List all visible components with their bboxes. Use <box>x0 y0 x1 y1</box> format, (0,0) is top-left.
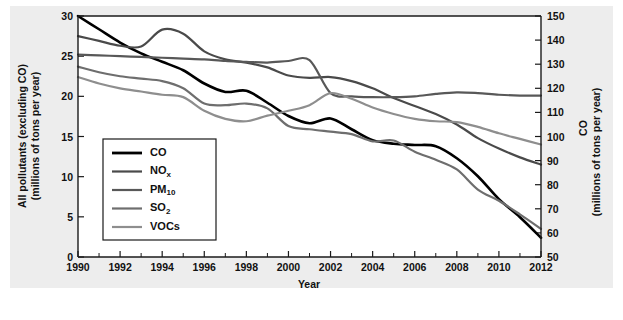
pollutant-trends-line-chart: 1990199219941996199820002002200420062008… <box>0 0 623 320</box>
left-y-tick-label: 15 <box>61 131 73 143</box>
x-axis-tick-labels: 1990199219941996199820002002200420062008… <box>66 261 553 273</box>
legend-label-vocs: VOCs <box>150 220 180 232</box>
right-y-tick-label: 80 <box>547 179 559 191</box>
right-y-tick-label: 120 <box>547 82 565 94</box>
right-y-tick-label: 100 <box>547 131 565 143</box>
legend-label-subscript: 2 <box>166 207 171 216</box>
x-tick-label: 2010 <box>487 261 511 273</box>
x-tick-label: 1996 <box>193 261 217 273</box>
right-y-tick-label: 110 <box>547 106 564 118</box>
left-y-tick-label: 5 <box>67 211 73 223</box>
right-y-tick-label: 70 <box>547 203 559 215</box>
right-y-axis-title-line1: CO <box>577 120 589 136</box>
left-y-tick-label: 10 <box>61 171 73 183</box>
x-tick-label: 2008 <box>445 261 469 273</box>
chart-legend[interactable]: CONOxPM10SO2VOCs <box>103 139 216 240</box>
right-y-tick-label: 130 <box>547 58 565 70</box>
left-y-tick-label: 25 <box>61 50 73 62</box>
x-tick-label: 2000 <box>277 261 301 273</box>
x-tick-label: 1992 <box>108 261 132 273</box>
legend-label-subscript: 10 <box>167 188 176 197</box>
chart-figure: 1990199219941996199820002002200420062008… <box>0 0 623 320</box>
right-y-axis-tick-labels: 5060708090100110120130140150 <box>547 10 565 263</box>
legend-label-co: CO <box>150 146 167 158</box>
x-tick-label: 2004 <box>361 261 385 273</box>
x-tick-label: 2006 <box>403 261 427 273</box>
left-y-tick-label: 30 <box>61 10 73 22</box>
x-tick-label: 2002 <box>319 261 343 273</box>
left-y-axis-title-line2: (millions of tons per year) <box>29 72 41 200</box>
right-y-tick-label: 50 <box>547 251 559 263</box>
left-y-axis-tick-labels: 051015202530 <box>61 10 73 263</box>
right-y-tick-label: 90 <box>547 155 559 167</box>
right-y-axis-title-line2: (millions of tons per year) <box>590 88 602 216</box>
right-y-tick-label: 150 <box>547 10 565 22</box>
x-axis-title: Year <box>298 278 320 290</box>
right-y-tick-label: 60 <box>547 227 559 239</box>
left-y-tick-label: 20 <box>61 90 73 102</box>
right-y-tick-label: 140 <box>547 34 565 46</box>
x-tick-label: 1994 <box>151 261 175 273</box>
left-y-axis-title-line1: All pollutants (excluding CO) <box>16 64 28 208</box>
left-y-tick-label: 0 <box>67 251 73 263</box>
legend-label-subscript: x <box>167 170 172 179</box>
x-tick-label: 1998 <box>235 261 259 273</box>
